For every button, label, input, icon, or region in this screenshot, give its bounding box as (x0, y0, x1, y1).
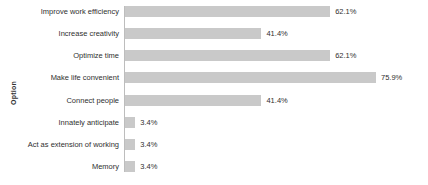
category-label: Innately anticipate (14, 118, 124, 127)
bar-row: Make life convenient75.9% (14, 72, 426, 83)
bar-value-label: 75.9% (376, 73, 402, 82)
bar-row: Memory3.4% (14, 161, 426, 172)
bar-track: 3.4% (124, 139, 426, 150)
category-label: Memory (14, 162, 124, 171)
bar-row: Optimize time62.1% (14, 50, 426, 61)
category-label: Increase creativity (14, 29, 124, 38)
category-label: Connect people (14, 96, 124, 105)
bar-track: 3.4% (124, 161, 426, 172)
bar-value-label: 3.4% (135, 140, 157, 149)
category-label: Act as extension of working (14, 140, 124, 149)
bar-track: 41.4% (124, 28, 426, 39)
category-label: Improve work efficiency (14, 7, 124, 16)
bar (124, 50, 330, 61)
bar-row: Act as extension of working3.4% (14, 139, 426, 150)
bar-value-label: 41.4% (261, 96, 287, 105)
bar (124, 95, 261, 106)
bar-value-label: 3.4% (135, 118, 157, 127)
bar-row: Improve work efficiency62.1% (14, 6, 426, 17)
bar-value-label: 62.1% (330, 7, 356, 16)
bar-rows: Improve work efficiency62.1%Increase cre… (14, 6, 426, 172)
bar-value-label: 3.4% (135, 162, 157, 171)
bar-track: 41.4% (124, 95, 426, 106)
bar (124, 72, 376, 83)
plot-area: Improve work efficiency62.1%Increase cre… (14, 6, 426, 172)
bar-row: Innately anticipate3.4% (14, 117, 426, 128)
bar-chart: Option Improve work efficiency62.1%Incre… (0, 0, 428, 185)
bar-track: 62.1% (124, 6, 426, 17)
bar-value-label: 41.4% (261, 29, 287, 38)
category-label: Optimize time (14, 51, 124, 60)
bar (124, 139, 135, 150)
bar-row: Increase creativity41.4% (14, 28, 426, 39)
bar-value-label: 62.1% (330, 51, 356, 60)
category-axis-line (124, 6, 125, 172)
bar-row: Connect people41.4% (14, 95, 426, 106)
bar-track: 3.4% (124, 117, 426, 128)
bar-track: 62.1% (124, 50, 426, 61)
bar (124, 117, 135, 128)
bar (124, 161, 135, 172)
bar-track: 75.9% (124, 72, 426, 83)
bar (124, 6, 330, 17)
bar (124, 28, 261, 39)
category-label: Make life convenient (14, 73, 124, 82)
